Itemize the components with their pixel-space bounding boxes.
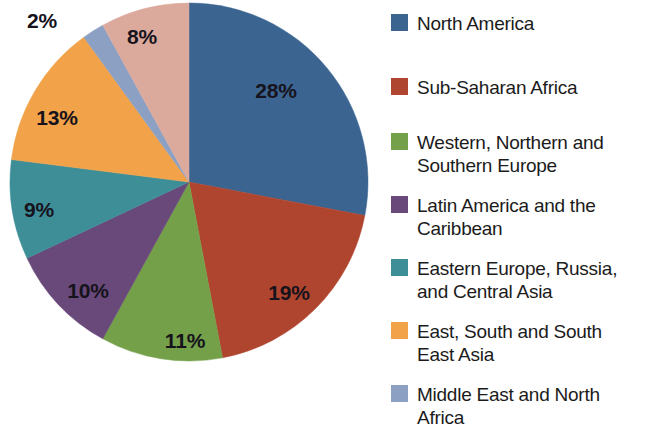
slice-label-sub-saharan-africa: 19% <box>268 282 309 303</box>
legend-swatch-eastern-europe-russia-central-asia <box>391 259 408 276</box>
legend-swatch-sub-saharan-africa <box>391 78 408 95</box>
legend-item-latin-america-caribbean[interactable]: Latin America and the Caribbean <box>391 194 596 240</box>
slice-label-latin-america-caribbean: 10% <box>67 280 108 301</box>
pie-chart: 28%19%11%10%9%13%2%8% North AmericaSub-S… <box>0 0 646 428</box>
legend-swatch-north-america <box>391 14 408 31</box>
slice-label-middle-east-north-africa: 2% <box>27 10 57 31</box>
legend-label-eastern-europe-russia-central-asia: Eastern Europe, Russia, and Central Asia <box>417 257 617 303</box>
legend-swatch-east-south-southeast-asia <box>391 322 408 339</box>
legend-item-north-america[interactable]: North America <box>391 12 534 35</box>
slice-label-western-northern-southern-europe: 11% <box>165 330 205 351</box>
legend-label-east-south-southeast-asia: East, South and South East Asia <box>417 320 602 366</box>
pie-svg <box>0 0 380 428</box>
slice-label-east-south-southeast-asia: 13% <box>36 107 77 128</box>
legend-item-east-south-southeast-asia[interactable]: East, South and South East Asia <box>391 320 602 366</box>
pie-plot-area: 28%19%11%10%9%13%2%8% <box>0 0 380 428</box>
legend-swatch-latin-america-caribbean <box>391 196 408 213</box>
slice-label-other: 8% <box>127 26 157 47</box>
slice-label-eastern-europe-russia-central-asia: 9% <box>24 199 54 220</box>
legend-label-middle-east-north-africa: Middle East and North Africa <box>417 383 600 428</box>
legend-swatch-middle-east-north-africa <box>391 385 408 402</box>
legend-label-western-northern-southern-europe: Western, Northern and Southern Europe <box>417 131 604 177</box>
legend-label-north-america: North America <box>417 12 534 35</box>
legend-item-middle-east-north-africa[interactable]: Middle East and North Africa <box>391 383 600 428</box>
legend-swatch-western-northern-southern-europe <box>391 133 408 150</box>
legend-item-western-northern-southern-europe[interactable]: Western, Northern and Southern Europe <box>391 131 604 177</box>
slice-label-north-america: 28% <box>255 80 296 101</box>
legend-item-sub-saharan-africa[interactable]: Sub-Saharan Africa <box>391 76 577 99</box>
legend-label-sub-saharan-africa: Sub-Saharan Africa <box>417 76 577 99</box>
legend: North AmericaSub-Saharan AfricaWestern, … <box>391 4 643 428</box>
pie-slice-north-america[interactable] <box>189 3 368 216</box>
legend-label-latin-america-caribbean: Latin America and the Caribbean <box>417 194 596 240</box>
legend-item-eastern-europe-russia-central-asia[interactable]: Eastern Europe, Russia, and Central Asia <box>391 257 617 303</box>
